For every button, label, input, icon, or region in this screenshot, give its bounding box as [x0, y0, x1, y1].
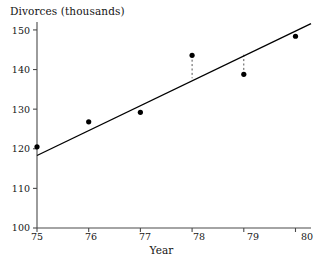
x-axis-ticks: [37, 228, 295, 232]
data-point-80: [293, 34, 298, 39]
residual-lines: [192, 53, 244, 78]
data-point-75: [34, 144, 39, 149]
axis-lines: [37, 22, 311, 228]
regression-line-path: [37, 24, 311, 156]
data-point-78: [189, 53, 194, 58]
data-point-77: [138, 110, 143, 115]
chart-figure: Divorces (thousands) Year 150 140 130 12…: [0, 0, 323, 264]
data-points: [34, 34, 298, 150]
y-axis-ticks: [33, 30, 37, 228]
regression-line: [37, 24, 311, 156]
data-point-79: [241, 72, 246, 77]
plot-area: [0, 0, 323, 264]
data-point-76: [86, 119, 91, 124]
